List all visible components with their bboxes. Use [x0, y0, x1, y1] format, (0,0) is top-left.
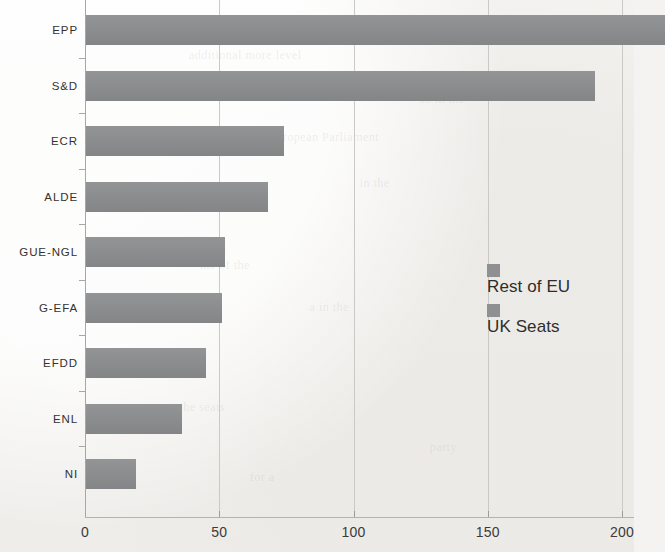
legend-label: Rest of EU — [487, 278, 607, 296]
y-axis-category-label: G-EFA — [39, 302, 78, 314]
legend-swatch-icon — [487, 304, 500, 317]
x-axis-tick-label: 150 — [476, 524, 500, 540]
gridline — [622, 0, 623, 518]
y-axis-category-label: EPP — [52, 24, 78, 36]
y-axis-category-label: ENL — [53, 413, 78, 425]
y-axis-category-label: ECR — [51, 135, 78, 147]
legend-label: UK Seats — [487, 318, 607, 336]
legend-swatch-icon — [487, 264, 500, 277]
x-axis-tick-label: 0 — [81, 524, 89, 540]
y-axis-category-label: S&D — [52, 80, 78, 92]
y-axis-category-label: GUE-NGL — [19, 246, 78, 258]
y-axis-category-label: EFDD — [43, 357, 78, 369]
y-axis-category-label: ALDE — [44, 191, 78, 203]
bar[interactable] — [85, 237, 225, 267]
legend-item-uk-seats[interactable]: UK Seats — [487, 304, 607, 336]
x-axis-line — [85, 517, 634, 518]
bar[interactable] — [85, 348, 206, 378]
y-axis-line — [85, 0, 86, 518]
bar[interactable] — [85, 182, 268, 212]
x-axis-tick-label: 100 — [342, 524, 366, 540]
bar[interactable] — [85, 71, 595, 101]
bar[interactable] — [85, 293, 222, 323]
y-axis-category-label: NI — [65, 468, 78, 480]
chart-legend: Rest of EU UK Seats — [487, 264, 607, 344]
bar[interactable] — [85, 126, 284, 156]
bar[interactable] — [85, 404, 182, 434]
x-axis-tick-label: 200 — [610, 524, 634, 540]
bar[interactable] — [85, 15, 665, 45]
legend-item-rest-of-eu[interactable]: Rest of EU — [487, 264, 607, 296]
bar[interactable] — [85, 459, 136, 489]
x-axis-tick-label: 50 — [211, 524, 227, 540]
